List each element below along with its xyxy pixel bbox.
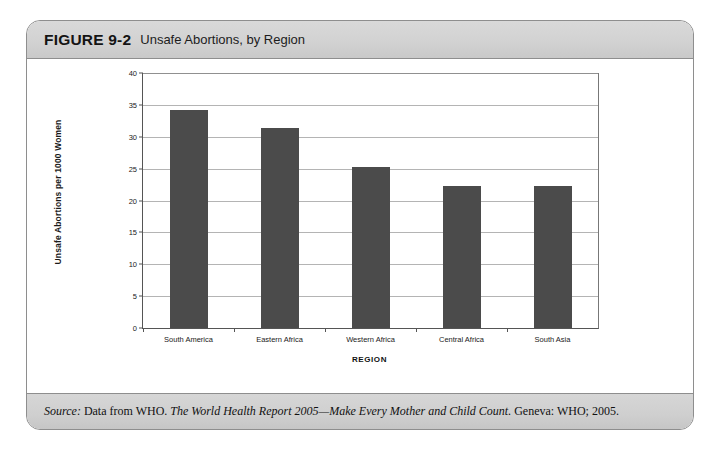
x-tick-mark <box>325 328 326 332</box>
figure-header: FIGURE 9-2 Unsafe Abortions, by Region <box>27 21 693 59</box>
x-tick-mark <box>234 328 235 332</box>
x-tick-label: South America <box>164 335 213 344</box>
y-tick-label: 15 <box>129 228 137 237</box>
x-tick-label: Eastern Africa <box>256 335 303 344</box>
bar-group: Western Africa <box>325 73 416 328</box>
figure-footer: Source: Data from WHO. The World Health … <box>27 393 693 429</box>
source-citation: Source: Data from WHO. The World Health … <box>44 404 619 419</box>
y-tick-label: 35 <box>129 100 137 109</box>
chart-body: Unsafe Abortions per 1000 Women 05101520… <box>27 59 693 395</box>
bar <box>170 110 208 328</box>
source-title: The World Health Report 2005—Make Every … <box>170 404 511 418</box>
y-tick-label: 0 <box>133 324 137 333</box>
bar-group: Central Africa <box>416 73 507 328</box>
bar-group: South America <box>143 73 234 328</box>
y-tick-label: 20 <box>129 196 137 205</box>
source-tail: Geneva: WHO; 2005. <box>511 404 619 418</box>
y-tick-label: 30 <box>129 132 137 141</box>
bar <box>352 167 390 328</box>
y-tick-label: 40 <box>129 69 137 78</box>
plot-area: 0510152025303540 South AmericaEastern Af… <box>142 73 599 329</box>
bar <box>443 186 481 328</box>
figure-caption: Unsafe Abortions, by Region <box>140 32 305 47</box>
bars-layer: South AmericaEastern AfricaWestern Afric… <box>143 73 598 328</box>
bar-group: Eastern Africa <box>234 73 325 328</box>
y-axis-title: Unsafe Abortions per 1000 Women <box>53 97 63 287</box>
x-tick-label: Central Africa <box>439 335 484 344</box>
y-tick-label: 5 <box>133 292 137 301</box>
x-tick-mark <box>507 328 508 332</box>
bar-group: South Asia <box>507 73 598 328</box>
x-tick-mark <box>416 328 417 332</box>
x-axis-title: REGION <box>142 355 597 364</box>
source-lead: Data from WHO. <box>81 404 170 418</box>
source-label: Source: <box>44 404 81 418</box>
figure-number: FIGURE 9-2 <box>44 31 131 49</box>
bar <box>261 128 299 328</box>
y-tick-label: 10 <box>129 260 137 269</box>
x-tick-label: South Asia <box>535 335 571 344</box>
x-tick-mark <box>143 328 144 332</box>
x-tick-label: Western Africa <box>346 335 395 344</box>
figure-card: FIGURE 9-2 Unsafe Abortions, by Region U… <box>26 20 694 430</box>
bar <box>534 186 572 328</box>
y-tick-label: 25 <box>129 164 137 173</box>
